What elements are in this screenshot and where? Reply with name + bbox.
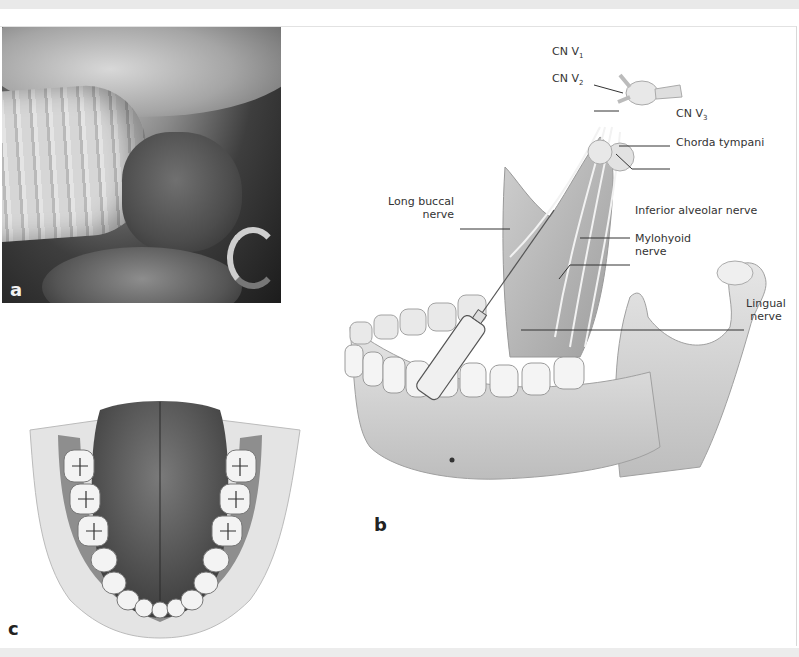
callout-cn-v2: CN V2: [552, 72, 583, 90]
panel-label-a: a: [10, 279, 22, 300]
callout-chorda-tympani: Chorda tympani: [676, 136, 764, 149]
panel-b-mandible: CN V1 CN V2 CN V3 Chorda tympani Long bu…: [330, 27, 795, 547]
panel-label-c: c: [8, 618, 19, 639]
panel-a-photo: a: [2, 27, 281, 303]
tongue-dental-arch-illustration: [0, 380, 320, 645]
panel-c-tongue: c: [0, 380, 320, 645]
lower-lip: [42, 247, 242, 303]
page-bottom-strip: [0, 648, 799, 657]
mandible-illustration: [330, 27, 795, 547]
panel-label-b: b: [374, 514, 387, 535]
callout-cn-v1: CN V1: [552, 45, 583, 63]
callout-long-buccal-nerve: Long buccal nerve: [368, 195, 454, 221]
callout-cn-v3: CN V3: [676, 107, 707, 125]
page-top-strip: [0, 0, 799, 9]
callout-mylohyoid-nerve: Mylohyoid nerve: [635, 232, 691, 258]
tongue: [122, 132, 242, 252]
callout-inferior-alveolar-nerve: Inferior alveolar nerve: [635, 204, 757, 217]
callout-lingual-nerve: Lingual nerve: [746, 297, 786, 323]
retractor-instrument: [227, 227, 279, 289]
